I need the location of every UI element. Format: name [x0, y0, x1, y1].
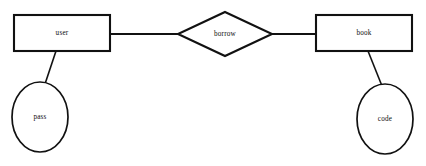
connector-book-code [368, 51, 382, 86]
er-diagram-svg: user book borrow pass code [0, 0, 426, 166]
entity-user-label: user [56, 29, 69, 37]
er-diagram-canvas: user book borrow pass code [0, 0, 426, 166]
relationship-borrow-label: borrow [214, 30, 237, 38]
connector-user-pass [45, 51, 56, 84]
attribute-code-label: code [378, 115, 392, 123]
entity-book-label: book [356, 29, 371, 37]
attribute-pass-label: pass [33, 113, 46, 121]
